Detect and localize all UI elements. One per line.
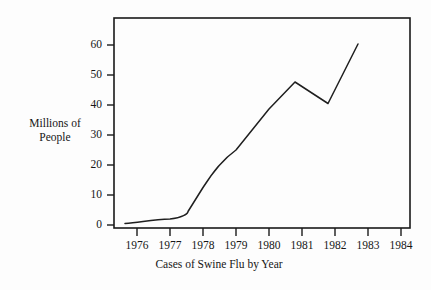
- y-tick-label-60: 60: [68, 39, 102, 51]
- data-line-series-1: [125, 44, 358, 224]
- plot-frame: [114, 18, 410, 228]
- y-tick-label-10: 10: [68, 189, 102, 201]
- x-axis-title: Cases of Swine Flu by Year: [86, 259, 352, 271]
- y-tick-label-0: 0: [68, 219, 102, 231]
- y-axis-title-line-1: Millions of: [12, 117, 98, 131]
- y-tick-marks: [107, 45, 114, 225]
- y-tick-label-40: 40: [68, 99, 102, 111]
- x-tick-marks: [137, 228, 401, 236]
- y-axis-title-line-2: People: [12, 131, 98, 145]
- chart-figure: 60 50 40 30 20 10 0 1976 1977 1978 1979 …: [0, 0, 431, 290]
- y-axis-title: Millions of People: [12, 117, 98, 144]
- y-tick-label-50: 50: [68, 69, 102, 81]
- x-tick-label-1984: 1984: [378, 240, 424, 252]
- y-tick-label-20: 20: [68, 159, 102, 171]
